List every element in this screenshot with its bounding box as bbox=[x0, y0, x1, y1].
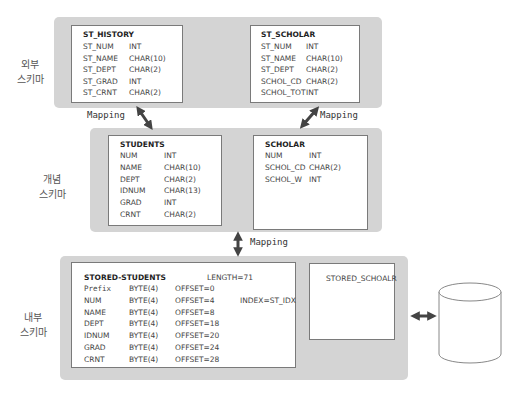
arrows-layer bbox=[0, 0, 515, 393]
mapping-arrow-right-icon bbox=[303, 110, 316, 125]
mapping-arrow-left-icon bbox=[139, 110, 150, 126]
database-disk-icon bbox=[439, 283, 501, 363]
